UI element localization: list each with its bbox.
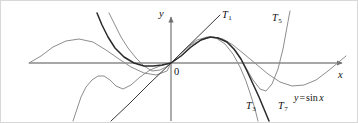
function-equation-label: y=sinx xyxy=(294,93,324,103)
y-axis-label: y xyxy=(159,9,164,20)
plot-canvas xyxy=(1,1,358,123)
function-label-fn: sin xyxy=(306,92,319,103)
curve-label-t3: T3 xyxy=(246,101,256,112)
function-label-arg: x xyxy=(319,92,323,103)
x-axis-label: x xyxy=(338,70,343,81)
curve-label-t7-subscript: 7 xyxy=(284,105,288,113)
origin-label: 0 xyxy=(174,67,179,78)
axes-group xyxy=(29,17,342,121)
taylor-polynomial-figure: y x 0 T1 T5 T3 T7 y=sinx xyxy=(0,0,358,123)
curve-label-t5: T5 xyxy=(272,13,282,24)
function-label-equals: = xyxy=(298,92,306,103)
curve-t7 xyxy=(97,13,269,121)
curve-sine xyxy=(29,37,346,86)
curve-t1 xyxy=(111,15,220,121)
curve-label-t1: T1 xyxy=(222,10,232,21)
curve-label-t7: T7 xyxy=(278,101,288,112)
curve-label-t3-subscript: 3 xyxy=(252,105,256,113)
curve-label-t1-subscript: 1 xyxy=(228,14,232,22)
curve-t5 xyxy=(73,11,290,121)
curve-label-t5-subscript: 5 xyxy=(278,17,282,25)
curves-group xyxy=(29,11,346,121)
